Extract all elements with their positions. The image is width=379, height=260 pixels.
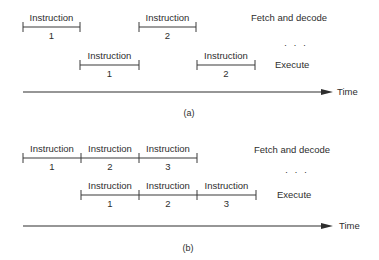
execute-segment-instruction-2: Instruction 2 bbox=[197, 50, 255, 79]
segment-number: 2 bbox=[107, 161, 112, 172]
panel-caption: (b) bbox=[183, 243, 194, 253]
panel-a: Instruction 1 Instruction 2 Instruction … bbox=[23, 12, 358, 118]
panel-b-fetch-row: Instruction 1 Instruction 2 Instruction … bbox=[23, 143, 197, 172]
fetch-segment-instruction-1: Instruction 1 bbox=[23, 12, 80, 41]
segment-number: 2 bbox=[165, 198, 170, 209]
pipeline-timing-diagram: Instruction 1 Instruction 2 Instruction … bbox=[0, 0, 379, 260]
execute-label: Execute bbox=[277, 189, 311, 200]
segment-number: 2 bbox=[165, 30, 170, 41]
segment-number: 3 bbox=[224, 198, 229, 209]
time-axis-b: Time bbox=[23, 220, 360, 231]
fetch-decode-label: Fetch and decode bbox=[251, 12, 327, 23]
time-axis-a: Time bbox=[23, 86, 358, 97]
execute-segment-instruction-1: Instruction 1 bbox=[80, 50, 139, 79]
fetch-decode-label: Fetch and decode bbox=[254, 144, 330, 155]
segment-label: Instruction bbox=[88, 50, 132, 61]
ellipsis: · · · bbox=[284, 40, 308, 50]
segment-label: Instruction bbox=[30, 12, 74, 23]
segment-label: Instruction bbox=[88, 143, 132, 154]
segment-label: Instruction bbox=[146, 143, 190, 154]
segment-label: Instruction bbox=[146, 12, 190, 23]
arrow-right-icon bbox=[321, 223, 333, 229]
panel-b-execute-row: Instruction 1 Instruction 2 Instruction … bbox=[81, 180, 256, 209]
fetch-segment-instruction-2: Instruction 2 bbox=[139, 12, 196, 41]
segment-label: Instruction bbox=[204, 50, 248, 61]
segment-number: 3 bbox=[165, 161, 170, 172]
time-label: Time bbox=[337, 86, 358, 97]
segment-number: 1 bbox=[107, 198, 112, 209]
segment-number: 1 bbox=[49, 30, 54, 41]
segment-number: 1 bbox=[107, 68, 112, 79]
panel-a-fetch-row: Instruction 1 Instruction 2 bbox=[23, 12, 196, 41]
arrow-right-icon bbox=[321, 89, 333, 95]
segment-number: 2 bbox=[223, 68, 228, 79]
ellipsis: · · · bbox=[285, 167, 309, 177]
panel-caption: (a) bbox=[184, 108, 195, 118]
time-label: Time bbox=[339, 220, 360, 231]
segment-label: Instruction bbox=[88, 180, 132, 191]
execute-label: Execute bbox=[275, 59, 309, 70]
panel-a-execute-row: Instruction 1 Instruction 2 bbox=[80, 50, 255, 79]
segment-label: Instruction bbox=[30, 143, 74, 154]
panel-b: Instruction 1 Instruction 2 Instruction … bbox=[23, 143, 360, 253]
segment-number: 1 bbox=[49, 161, 54, 172]
segment-label: Instruction bbox=[205, 180, 249, 191]
segment-label: Instruction bbox=[146, 180, 190, 191]
